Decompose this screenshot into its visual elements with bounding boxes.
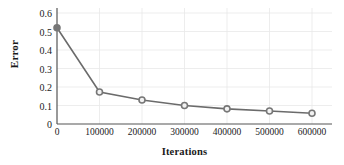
data-point-marker (54, 25, 60, 31)
data-point-marker (224, 106, 230, 112)
chart-figure: Error 0 0.1 0.2 0.3 0.4 0.5 0.6 0 100000… (0, 0, 344, 165)
data-point-marker (139, 97, 145, 103)
plot-area (0, 0, 344, 165)
data-point-marker (309, 110, 315, 116)
data-point-marker (97, 89, 103, 95)
data-point-marker (267, 108, 273, 114)
data-point-marker (182, 103, 188, 109)
